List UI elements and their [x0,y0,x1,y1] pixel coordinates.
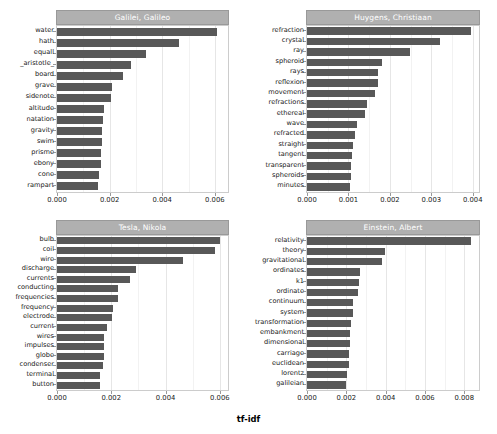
bar [57,314,112,321]
bar [307,361,349,368]
y-tick-label: ordinate [276,288,304,295]
y-tick-label: water [35,27,54,34]
minor-gridline [445,236,446,390]
plot-area-einstein [306,235,480,391]
y-tick-label: refraction [272,27,304,34]
bar [307,162,351,169]
y-tick-label: relativity [275,237,304,244]
bar [57,182,98,190]
x-tick-label: 0.004 [156,394,175,402]
bar [307,340,350,347]
plot-area-huygens [306,25,480,193]
y-tick-label: wire [40,256,54,263]
bar [57,334,104,341]
y-tick-label: wave [287,120,304,127]
bar [307,320,351,327]
panel-einstein: Einstein, Albert [306,220,480,391]
y-tick-label: natation [27,116,54,123]
bar [307,309,353,316]
plot-area-galilei [56,25,229,193]
x-axis-title: tf-idf [0,414,497,424]
bar [57,372,100,379]
y-tick-label: sidenote [26,93,54,100]
bar [307,350,349,357]
y-tick-label: minutes [277,182,304,189]
bar [307,299,353,306]
y-tick-label: equall [34,49,54,56]
bar [307,381,346,388]
bar [307,248,385,255]
y-tick-label: ordinates [273,267,304,274]
y-tick-label: globe [36,352,54,359]
bar [57,127,102,135]
bar [57,61,131,69]
bar [307,110,365,117]
bar [57,50,146,58]
y-tick-label: refractions [269,99,304,106]
x-tick-label: 0.004 [376,394,395,402]
minor-gridline [411,26,412,192]
y-tick-label: grave [35,82,54,89]
gridline [215,26,216,192]
bar [307,38,440,45]
plot-area-tesla [56,235,229,391]
y-tick-label: ethereal [277,110,304,117]
bar [57,237,220,244]
y-tick-label: swim [37,138,54,145]
bar [57,343,104,350]
x-tick-label: 0.002 [100,196,119,204]
bar [57,324,107,331]
bar [57,160,101,168]
bar [307,268,360,275]
y-tick-label: crystal [282,37,304,44]
bar [307,183,350,190]
x-tick-label: 0.003 [422,196,441,204]
bar [57,171,99,179]
y-tick-label: lorentz [281,370,304,377]
y-tick-label: rampart [27,182,54,189]
panel-tesla: Tesla, Nikola [56,220,229,391]
y-tick-label: dimensional [264,339,304,346]
bar [307,48,410,55]
bar [57,149,101,157]
bar [307,258,382,265]
bar [307,237,471,244]
y-tick-label: altitude [29,105,54,112]
bar [307,142,353,149]
x-tick-label: 0.002 [380,196,399,204]
y-tick-label: currents [27,275,54,282]
y-tick-label: impulses [25,342,54,349]
tfidf-facet-chart: Galilei, Galileo Huygens, Christiaan Tes… [0,0,497,434]
gridline [473,26,474,192]
gridline [386,236,387,390]
y-tick-label: system [280,309,304,316]
bar [307,121,357,128]
x-tick-label: 0.006 [205,196,224,204]
panel-galilei: Galilei, Galileo [56,10,229,193]
bar [307,371,347,378]
panel-title-huygens: Huygens, Christiaan [306,10,480,25]
y-tick-label: ray [293,47,304,54]
bar [307,152,352,159]
bar [57,116,103,124]
minor-gridline [405,236,406,390]
y-tick-label: button [32,381,54,388]
y-tick-label: discharge [22,265,54,272]
y-tick-label: refracted [274,130,304,137]
x-tick-label: 0.001 [339,196,358,204]
gridline [464,236,465,390]
y-tick-label: prisme [31,149,54,156]
y-tick-label: gravity [31,127,54,134]
y-tick-label: current [30,323,54,330]
y-tick-label: wires [37,333,54,340]
y-tick-label: movement [268,89,304,96]
y-tick-label: frequencies [16,294,55,301]
x-tick-label: 0.002 [102,394,121,402]
gridline [220,236,221,390]
x-tick-label: 0.008 [455,394,474,402]
y-tick-label: ebony [34,160,54,167]
bar [307,131,355,138]
bar [57,94,111,102]
y-tick-label: spheroid [276,58,304,65]
minor-gridline [193,236,194,390]
